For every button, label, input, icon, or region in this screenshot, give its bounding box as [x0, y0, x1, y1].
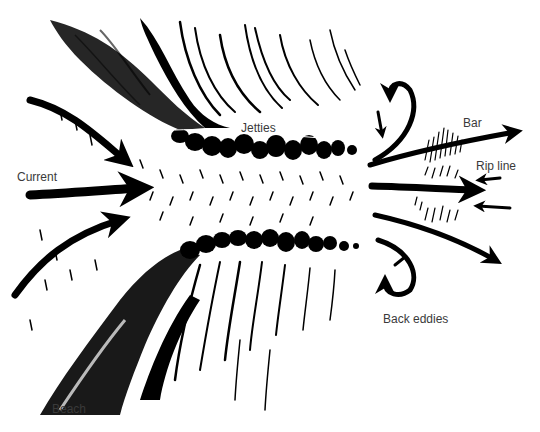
lower-shore — [40, 250, 200, 415]
label-rip-line: Rip line — [476, 160, 516, 172]
label-current: Current — [17, 171, 57, 183]
label-bar: Bar — [463, 117, 482, 129]
rip-line-arrows — [478, 178, 510, 208]
label-jetties: Jetties — [241, 122, 276, 134]
upper-wave-streaks — [180, 22, 360, 115]
label-back-eddies: Back eddies — [383, 313, 448, 325]
label-beach: Beach — [52, 403, 86, 415]
lower-wave-streaks — [175, 262, 335, 410]
rip-current-diagram — [0, 0, 540, 432]
lower-jetty — [180, 229, 359, 259]
upper-shore — [50, 18, 230, 130]
